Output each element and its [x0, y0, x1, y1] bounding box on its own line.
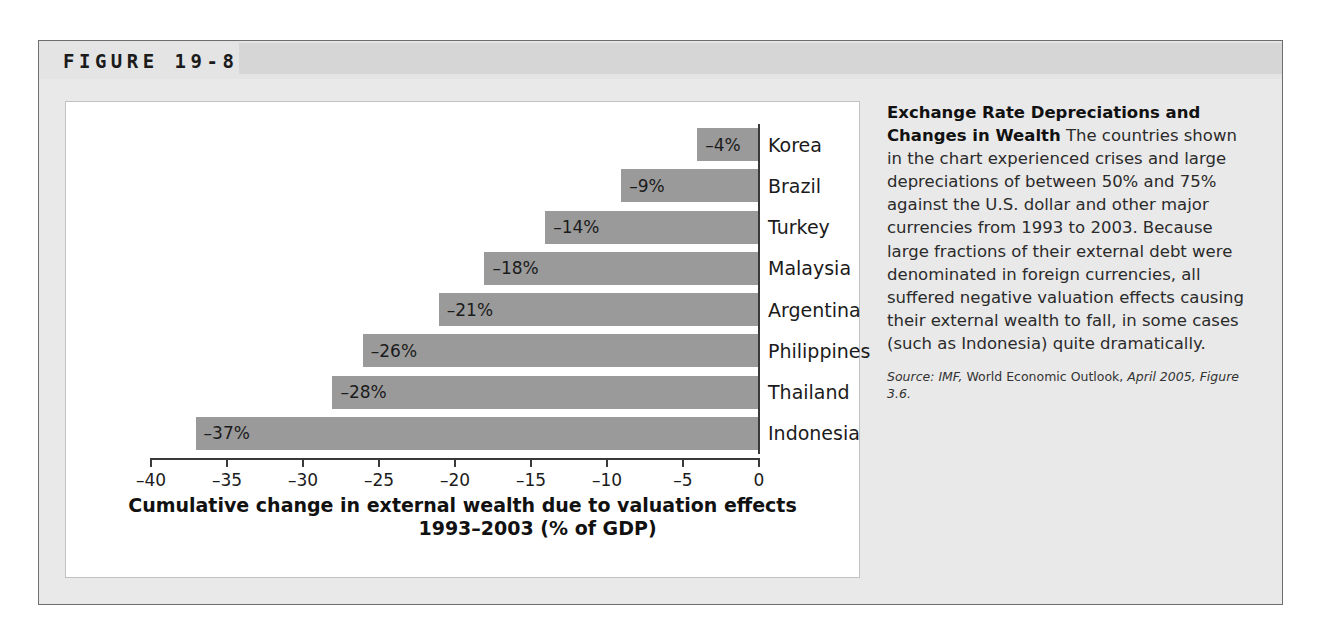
axis-tick: [606, 458, 608, 467]
source-work: World Economic Outlook,: [962, 369, 1123, 384]
axis-tick: [226, 458, 228, 467]
bar-value-label: –14%: [553, 217, 599, 237]
axis-tick-label: –15: [516, 470, 546, 490]
x-axis-title: Cumulative change in external wealth due…: [66, 494, 859, 540]
axis-tick: [530, 458, 532, 467]
bar: –4%: [697, 128, 758, 161]
bar: –28%: [332, 376, 758, 409]
axis-tick: [454, 458, 456, 467]
bar: –21%: [439, 293, 758, 326]
bar-value-label: –21%: [447, 300, 493, 320]
figure-title: FIGURE 19-8: [63, 50, 238, 72]
plot-area: –4%Korea–9%Brazil–14%Turkey–18%Malaysia–…: [66, 102, 859, 577]
bar-row: –21%Argentina: [66, 289, 859, 330]
x-axis-title-line1: Cumulative change in external wealth due…: [128, 494, 797, 516]
axis-tick-label: –30: [288, 470, 318, 490]
bar-row: –26%Philippines: [66, 330, 859, 371]
axis-tick: [150, 458, 152, 467]
axis-tick-label: –20: [440, 470, 470, 490]
bar-value-label: –4%: [705, 135, 740, 155]
bar: –37%: [196, 417, 758, 450]
figure-header-band: [239, 43, 1282, 74]
caption-source: Source: IMF, World Economic Outlook, Apr…: [887, 368, 1247, 403]
caption-text: Exchange Rate Depreciations and Changes …: [887, 101, 1247, 355]
axis-tick: [378, 458, 380, 467]
bar-value-label: –9%: [629, 176, 664, 196]
bar-row: –37%Indonesia: [66, 413, 859, 454]
bar: –26%: [363, 334, 758, 367]
bar: –18%: [484, 252, 758, 285]
axis-tick-label: –25: [364, 470, 394, 490]
caption-column: Exchange Rate Depreciations and Changes …: [887, 101, 1247, 403]
figure-frame: FIGURE 19-8 –4%Korea–9%Brazil–14%Turkey–…: [38, 40, 1283, 605]
chart-panel: –4%Korea–9%Brazil–14%Turkey–18%Malaysia–…: [65, 101, 860, 578]
bar: –9%: [621, 169, 758, 202]
category-label: Brazil: [768, 175, 821, 197]
axis-tick-label: –10: [592, 470, 622, 490]
caption-body-text: The countries shown in the chart experie…: [887, 126, 1244, 353]
category-label: Turkey: [768, 216, 830, 238]
bar-row: –4%Korea: [66, 124, 859, 165]
axis-tick: [302, 458, 304, 467]
axis-tick: [758, 458, 760, 467]
x-axis: –40–35–30–25–20–15–10–50: [66, 458, 859, 468]
category-label: Korea: [768, 134, 822, 156]
axis-tick-label: –35: [212, 470, 242, 490]
axis-tick: [682, 458, 684, 467]
category-label: Thailand: [768, 381, 850, 403]
bar-row: –28%Thailand: [66, 372, 859, 413]
bar-series: –4%Korea–9%Brazil–14%Turkey–18%Malaysia–…: [66, 124, 859, 454]
bar-row: –18%Malaysia: [66, 248, 859, 289]
bar: –14%: [545, 211, 758, 244]
category-label: Indonesia: [768, 422, 860, 444]
axis-tick-label: –5: [673, 470, 692, 490]
bar-row: –14%Turkey: [66, 207, 859, 248]
source-date: April 2005,: [1123, 369, 1195, 384]
category-label: Philippines: [768, 340, 870, 362]
axis-tick-label: 0: [754, 470, 765, 490]
bar-value-label: –26%: [371, 341, 417, 361]
axis-tick-label: –40: [136, 470, 166, 490]
x-axis-title-line2: 1993–2003 (% of GDP): [66, 517, 859, 540]
bar-value-label: –28%: [340, 382, 386, 402]
bar-row: –9%Brazil: [66, 165, 859, 206]
source-prefix: Source: IMF,: [887, 369, 962, 384]
bar-value-label: –37%: [204, 423, 250, 443]
bar-value-label: –18%: [492, 258, 538, 278]
category-label: Argentina: [768, 299, 861, 321]
figure-header: FIGURE 19-8: [39, 41, 1282, 79]
category-label: Malaysia: [768, 257, 851, 279]
